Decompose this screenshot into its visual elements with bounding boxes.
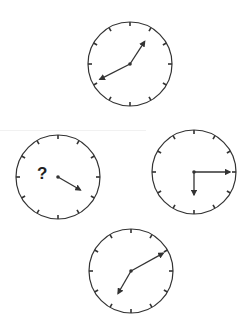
tick-mark — [158, 191, 161, 193]
tick-mark — [227, 151, 230, 153]
tick-mark — [22, 156, 25, 158]
tick-mark — [164, 250, 167, 252]
tick-mark — [227, 191, 230, 193]
tick-mark — [213, 205, 215, 208]
hour-hand — [130, 41, 145, 64]
center-pivot — [192, 170, 196, 174]
tick-mark — [149, 28, 151, 31]
tick-mark — [110, 235, 112, 238]
tick-mark — [158, 151, 161, 153]
tick-mark — [95, 250, 98, 252]
tick-mark — [94, 43, 97, 45]
center-pivot — [129, 269, 133, 273]
tick-mark — [77, 141, 79, 144]
tick-mark — [149, 97, 151, 100]
tick-mark — [173, 136, 175, 139]
tick-mark — [37, 210, 39, 213]
tick-mark — [95, 290, 98, 292]
tick-mark — [94, 83, 97, 85]
tick-mark — [150, 304, 152, 307]
tick-mark — [91, 196, 94, 198]
tick-mark — [213, 136, 215, 139]
tick-mark — [164, 290, 167, 292]
clock-top — [88, 22, 172, 106]
tick-mark — [109, 28, 111, 31]
hour-hand — [118, 271, 131, 294]
question-mark: ? — [37, 165, 47, 182]
minute-hand — [100, 64, 130, 79]
tick-mark — [37, 141, 39, 144]
tick-mark — [77, 210, 79, 213]
tick-mark — [163, 83, 166, 85]
tick-mark — [109, 97, 111, 100]
tick-mark — [91, 156, 94, 158]
tick-mark — [22, 196, 25, 198]
clock-right — [152, 130, 236, 214]
clock-bottom — [89, 229, 173, 313]
tick-mark — [110, 304, 112, 307]
minute-hand — [58, 177, 81, 190]
clock-left — [16, 135, 100, 219]
tick-mark — [163, 43, 166, 45]
tick-mark — [150, 235, 152, 238]
center-pivot — [128, 62, 132, 66]
center-pivot — [56, 175, 60, 179]
tick-mark — [173, 205, 175, 208]
minute-hand — [131, 253, 163, 271]
